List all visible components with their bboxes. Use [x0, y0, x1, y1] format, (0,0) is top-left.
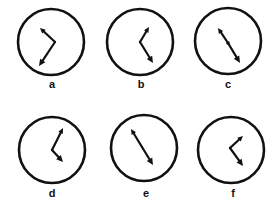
hand-shaft [140, 42, 150, 59]
hand-shaft [230, 139, 240, 148]
clock-label-f: f [231, 187, 235, 199]
clock-b: b [107, 9, 173, 90]
clock-face-icon [111, 115, 177, 181]
hand-shaft [43, 31, 55, 42]
clock-label-a: a [49, 78, 56, 90]
clock-hand-short [131, 129, 142, 147]
hand-shaft [142, 147, 150, 161]
clock-face-icon [18, 9, 84, 75]
hand-shaft [42, 42, 55, 62]
clock-hand-short [230, 136, 243, 148]
clock-hand-long [230, 148, 243, 166]
clock-label-e: e [143, 187, 149, 199]
clock-hand-short [218, 28, 228, 43]
clock-hand-long [142, 147, 153, 165]
clock-figure: a b c d e f [0, 0, 273, 204]
clock-hand-short [52, 128, 63, 150]
clock-label-c: c [225, 78, 231, 90]
clock-hand-long [140, 42, 153, 63]
clock-d: d [19, 117, 85, 199]
clock-label-d: d [49, 187, 56, 199]
clock-hand-long [228, 43, 240, 63]
hand-shaft [230, 148, 240, 162]
hand-shaft [220, 31, 228, 43]
clock-hand-long [39, 42, 55, 66]
hand-shaft [133, 132, 142, 147]
clock-face-icon [195, 8, 261, 74]
clock-f: f [198, 117, 264, 199]
center-pivot-icon [226, 41, 230, 45]
clock-hand-long [52, 150, 63, 162]
hand-shaft [228, 43, 237, 59]
hand-shaft [140, 30, 147, 42]
clock-label-b: b [138, 78, 145, 90]
hand-shaft [52, 132, 61, 150]
clock-hand-short [40, 28, 55, 42]
clock-diagram-canvas: a b c d e f [0, 0, 273, 204]
clock-c: c [195, 8, 261, 90]
clock-a: a [18, 9, 84, 90]
clock-hand-short [140, 27, 149, 42]
hand-shaft [52, 150, 60, 158]
clock-e: e [111, 115, 177, 199]
